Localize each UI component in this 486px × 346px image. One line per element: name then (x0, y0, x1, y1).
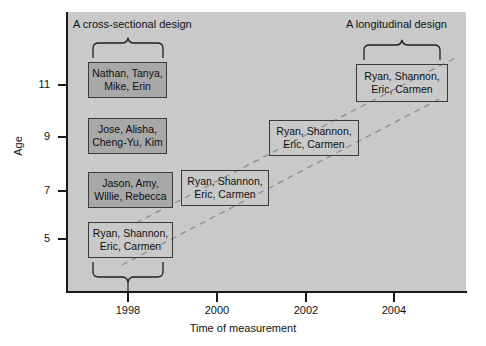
y-tick-mark-9 (58, 136, 67, 138)
y-tick-label-9: 9 (20, 130, 50, 142)
x-tick-mark-2002 (305, 293, 307, 302)
group-box-line1: Ryan, Shannon, (276, 125, 351, 138)
group-box-ryan-2002[interactable]: Ryan, Shannon, Eric, Carmen (269, 120, 359, 156)
x-axis-title: Time of measurement (0, 322, 486, 334)
x-tick-label-1998: 1998 (98, 305, 158, 316)
y-tick-label-5: 5 (20, 232, 50, 244)
y-tick-mark-11 (58, 84, 67, 86)
group-box-line1: Nathan, Tanya, (92, 67, 162, 80)
y-tick-mark-5 (58, 238, 67, 240)
figure-canvas: 11 9 7 5 1998 2000 2002 2004 Age Time of… (0, 0, 486, 346)
x-tick-mark-2004 (393, 293, 395, 302)
group-box-line2: Eric, Carmen (364, 83, 439, 96)
group-box-line1: Ryan, Shannon, (187, 175, 262, 188)
y-axis-line (66, 12, 68, 293)
group-box-ryan-1998[interactable]: Ryan, Shannon, Eric, Carmen (88, 222, 173, 258)
y-tick-label-7: 7 (20, 184, 50, 196)
group-box-line1: Jason, Amy, (94, 177, 166, 190)
group-box-jose-alisha-chengyu-kim[interactable]: Jose, Alisha, Cheng-Yu, Kim (88, 118, 167, 154)
group-box-line1: Ryan, Shannon, (93, 227, 168, 240)
group-box-line1: Ryan, Shannon, (364, 70, 439, 83)
x-tick-mark-1998 (127, 293, 129, 302)
x-tick-label-2004: 2004 (364, 305, 424, 316)
group-box-line2: Eric, Carmen (187, 188, 262, 201)
group-box-ryan-2004[interactable]: Ryan, Shannon, Eric, Carmen (356, 64, 448, 102)
x-tick-label-2002: 2002 (276, 305, 336, 316)
group-box-line1: Jose, Alisha, (92, 123, 163, 136)
group-box-jason-amy-willie-rebecca[interactable]: Jason, Amy, Willie, Rebecca (88, 172, 173, 208)
x-tick-label-2000: 2000 (187, 305, 247, 316)
annotation-longitudinal-design: A longitudinal design (346, 18, 447, 30)
group-box-line2: Willie, Rebecca (94, 190, 166, 203)
y-tick-label-11: 11 (20, 78, 50, 90)
x-tick-mark-2000 (216, 293, 218, 302)
y-tick-mark-7 (58, 190, 67, 192)
group-box-ryan-2000[interactable]: Ryan, Shannon, Eric, Carmen (181, 170, 269, 206)
group-box-line2: Eric, Carmen (93, 240, 168, 253)
group-box-nathan-tanya-mike-erin[interactable]: Nathan, Tanya, Mike, Erin (88, 62, 167, 98)
group-box-line2: Eric, Carmen (276, 138, 351, 151)
group-box-line2: Cheng-Yu, Kim (92, 136, 163, 149)
annotation-cross-sectional-design: A cross-sectional design (73, 18, 192, 30)
y-axis-title: Age (12, 116, 24, 176)
group-box-line2: Mike, Erin (92, 80, 162, 93)
